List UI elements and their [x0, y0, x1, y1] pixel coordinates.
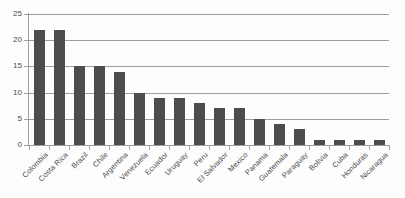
- bar[interactable]: [94, 66, 105, 145]
- x-axis-tick: [209, 146, 210, 150]
- x-axis-tick: [89, 146, 90, 150]
- x-axis-tick: [169, 146, 170, 150]
- x-axis-tick: [49, 146, 50, 150]
- bar[interactable]: [254, 119, 265, 145]
- x-axis-tick: [349, 146, 350, 150]
- y-axis-tick: [24, 14, 29, 15]
- x-axis-category-label: Bolivia: [308, 151, 329, 172]
- x-axis-tick: [289, 146, 290, 150]
- y-axis-tick-label: 10: [0, 89, 22, 97]
- x-axis-tick: [69, 146, 70, 150]
- x-axis-tick: [109, 146, 110, 150]
- bar[interactable]: [194, 103, 205, 145]
- bar[interactable]: [54, 30, 65, 145]
- bar[interactable]: [174, 98, 185, 145]
- y-axis-tick: [24, 66, 29, 67]
- x-axis-tick: [269, 146, 270, 150]
- bar[interactable]: [34, 30, 45, 145]
- bars-layer: [29, 14, 389, 145]
- y-axis-tick: [24, 119, 29, 120]
- x-axis-category-labels: ColombiaCosta RicaBrazilChileArgentinaVe…: [0, 145, 405, 198]
- x-axis-tick: [149, 146, 150, 150]
- bar[interactable]: [274, 124, 285, 145]
- bar[interactable]: [134, 93, 145, 145]
- x-axis-tick: [309, 146, 310, 150]
- y-axis-tick-label: 5: [0, 115, 22, 123]
- x-axis-tick: [329, 146, 330, 150]
- y-axis-tick-label: 25: [0, 10, 22, 18]
- y-axis-tick-label: 20: [0, 36, 22, 44]
- y-axis-tick: [24, 93, 29, 94]
- x-axis-tick: [249, 146, 250, 150]
- x-axis-tick: [29, 146, 30, 150]
- bar[interactable]: [234, 108, 245, 145]
- y-axis-tick-label: 15: [0, 62, 22, 70]
- x-axis-tick: [229, 146, 230, 150]
- x-axis-tick: [389, 146, 390, 150]
- y-axis-tick: [24, 40, 29, 41]
- bar[interactable]: [214, 108, 225, 145]
- x-axis-category-label: Brazil: [70, 151, 89, 170]
- x-axis-tick: [369, 146, 370, 150]
- bar[interactable]: [114, 72, 125, 145]
- x-axis-tick: [129, 146, 130, 150]
- bar[interactable]: [294, 129, 305, 145]
- bar[interactable]: [154, 98, 165, 145]
- bar-chart: ColombiaCosta RicaBrazilChileArgentinaVe…: [0, 0, 405, 198]
- x-axis-tick: [189, 146, 190, 150]
- y-axis-tick-label: 0: [0, 141, 22, 149]
- bar[interactable]: [74, 66, 85, 145]
